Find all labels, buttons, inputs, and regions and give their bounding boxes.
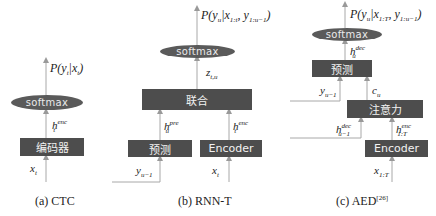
rnnt-enc-hidden-label: henct xyxy=(233,120,236,135)
aed-softmax: softmax xyxy=(312,28,382,41)
aed-enc-hidden-label: henc1:T xyxy=(396,123,407,138)
rnnt-enc-input-label: xt xyxy=(212,165,219,179)
rnnt-pred-input-label: yu−1 xyxy=(136,165,153,179)
rnnt-caption: (b) RNN-T xyxy=(178,194,232,209)
aed-context-label: cu xyxy=(372,85,380,99)
aed-predictor-box: 预测 xyxy=(312,60,372,77)
aed-attention-box: 注意力 xyxy=(347,100,423,118)
ctc-output-label: P(yt|xt) xyxy=(50,62,83,77)
ctc-input-label: xt xyxy=(30,163,37,177)
rnnt-predictor-box: 预测 xyxy=(128,140,192,157)
aed-encoder-box: Encoder xyxy=(365,140,428,157)
aed-prev-dec-hidden-label: hdecu−1 xyxy=(336,123,350,138)
ctc-hidden-label: henct xyxy=(52,119,55,134)
aed-caption: (c) AED[26] xyxy=(336,194,388,209)
rnnt-pred-hidden-label: hpreu xyxy=(164,120,169,135)
rnnt-encoder-box: Encoder xyxy=(200,140,262,157)
rnnt-joint-box: 联合 xyxy=(142,89,252,110)
ctc-softmax: softmax xyxy=(11,95,83,110)
ctc-caption: (a) CTC xyxy=(35,194,75,209)
aed-pred-input-label: yu−1 xyxy=(320,85,337,99)
rnnt-joint-output-label: zt,u xyxy=(206,67,217,81)
ctc-encoder-box: 编码器 xyxy=(20,138,84,156)
rnnt-softmax: softmax xyxy=(160,45,235,58)
rnnt-output-label: P(yu|x1:t, y1:u−1) xyxy=(201,9,270,24)
aed-dec-hidden-label: hdecu xyxy=(350,45,356,60)
aed-output-label: P(yu|x1:T, y1:u−1) xyxy=(350,8,421,23)
aed-input-label: x1:T xyxy=(374,165,389,179)
